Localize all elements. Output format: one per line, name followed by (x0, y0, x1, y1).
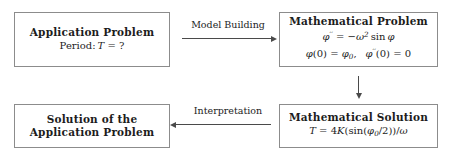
modeling-cycle-diagram: Application Problem Period:T = ? Mathema… (0, 0, 452, 161)
formula-elliptic-integral-K: K (337, 125, 344, 136)
arrow-label-interpretation: Interpretation (185, 105, 271, 116)
initial-conditions-comma: , (353, 48, 356, 59)
equation-sine-argument: φ (387, 32, 394, 43)
box-solution-application-problem: Solution of the Application Problem (14, 104, 170, 148)
arrow-solve-head-icon (356, 93, 362, 99)
initial-condition-2-relation: = (393, 48, 401, 59)
initial-condition-2-argument: (0) (376, 48, 390, 59)
initial-condition-1-argument: (0) (313, 48, 327, 59)
period-value: ? (119, 40, 124, 51)
arrow-interpretation-head-icon (170, 122, 176, 128)
arrow-model-building-line (182, 38, 273, 39)
initial-condition-1-phi: φ (306, 48, 313, 59)
period-relation: = (107, 40, 115, 51)
formula-open-paren-sine: (sin( (345, 125, 368, 136)
initial-condition-2-phi: φ (366, 48, 373, 59)
initial-condition-2-value: 0 (405, 48, 411, 59)
box-mathematical-solution: Mathematical Solution T = 4K(sin(φ0/2))/… (279, 104, 438, 148)
arrow-label-model-building: Model Building (183, 19, 273, 30)
solution-application-title-line2: Application Problem (30, 126, 155, 139)
formula-relation: = (319, 125, 327, 136)
arrow-solve-line (358, 76, 359, 94)
equation-omega: ω (356, 32, 364, 43)
equation-minus-sign: − (348, 32, 356, 43)
initial-conditions: φ(0) = φ0,φ′′(0) = 0 (306, 45, 411, 64)
formula-half-and-close: /2))/ (379, 125, 400, 136)
initial-condition-1-value: φ (342, 48, 349, 59)
arrow-interpretation-line (176, 124, 271, 125)
equation-relation: = (336, 32, 344, 43)
formula-omega: ω (400, 125, 408, 136)
box-application-problem: Application Problem Period:T = ? (14, 12, 170, 67)
period-formula: T = 4K(sin(φ0/2))/ω (309, 124, 408, 141)
solution-application-title-line1: Solution of the (47, 113, 138, 126)
period-variable: T (98, 40, 105, 51)
formula-period-variable: T (309, 125, 316, 136)
application-problem-period: Period:T = ? (60, 39, 125, 53)
equation-omega-exponent: 2 (364, 30, 369, 39)
arrow-model-building-head-icon (271, 36, 277, 42)
mathematical-solution-title: Mathematical Solution (289, 111, 428, 124)
pendulum-differential-equation: φ′′ = −ω2sinφ (323, 28, 395, 44)
period-label: Period: (60, 40, 96, 51)
equation-lhs-phi: φ (323, 32, 330, 43)
mathematical-problem-title: Mathematical Problem (289, 15, 428, 28)
application-problem-title: Application Problem (30, 26, 155, 39)
box-mathematical-problem: Mathematical Problem φ′′ = −ω2sinφ φ(0) … (279, 12, 438, 67)
equation-sine-function: sin (371, 32, 386, 43)
initial-condition-1-relation: = (330, 48, 338, 59)
equation-lhs-double-prime: ′′ (330, 30, 333, 39)
